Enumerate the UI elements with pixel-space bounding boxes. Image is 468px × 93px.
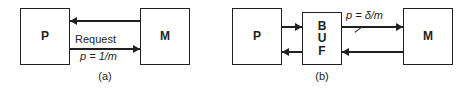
edge-memory-to-process-line	[70, 20, 140, 22]
caption-panel-b: (b)	[297, 70, 347, 82]
figure-container: P M Request p = 1/m (a) P B U F M	[0, 0, 468, 93]
caption-panel-a: (a)	[80, 70, 130, 82]
node-process-b-label: P	[253, 30, 261, 43]
edge-process-to-buffer-arrowhead	[295, 23, 302, 31]
diagram-panel-a: P M Request p = 1/m (a)	[0, 0, 234, 93]
buffer-rate-label: p = δ/m	[345, 9, 384, 21]
edge-memory-to-buffer-arrowhead	[342, 48, 349, 56]
edge-memory-to-process-arrowhead	[70, 17, 77, 25]
request-label: Request	[74, 33, 117, 45]
node-buffer-line-3: F	[318, 45, 325, 58]
node-process-a-label: P	[41, 30, 49, 43]
node-buffer-line-2: U	[318, 32, 327, 45]
node-memory-b: M	[403, 8, 453, 65]
node-buffer: B U F	[302, 12, 342, 65]
request-rate-label: p = 1/m	[79, 50, 118, 62]
node-memory-b-label: M	[423, 30, 433, 43]
node-memory-a: M	[140, 8, 190, 65]
node-process-a: P	[20, 8, 70, 65]
edge-buffer-to-memory-line	[342, 26, 403, 28]
node-memory-a-label: M	[160, 30, 170, 43]
edge-buffer-to-process-arrowhead	[282, 48, 289, 56]
edge-memory-to-buffer-line	[342, 51, 403, 53]
edge-buffer-to-memory-arrowhead	[396, 23, 403, 31]
node-process-b: P	[232, 8, 282, 65]
node-buffer-label: B U F	[318, 20, 327, 58]
edge-process-to-memory-arrowhead	[133, 45, 140, 53]
diagram-panel-b: P B U F M p = δ/m (b)	[234, 0, 468, 93]
